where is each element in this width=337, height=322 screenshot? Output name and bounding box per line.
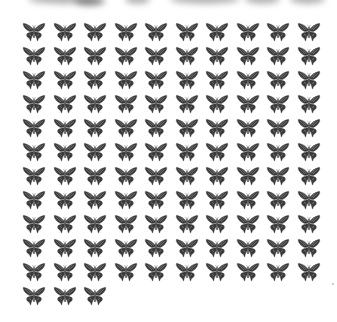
butterfly-icon bbox=[236, 141, 260, 163]
butterfly-icon bbox=[53, 237, 77, 259]
butterfly-icon bbox=[144, 117, 168, 139]
butterfly-icon bbox=[22, 189, 46, 211]
butterfly-icon bbox=[22, 69, 46, 91]
butterfly-icon bbox=[83, 285, 107, 307]
butterfly-icon bbox=[114, 141, 138, 163]
butterfly-icon bbox=[53, 45, 77, 67]
butterfly-icon bbox=[144, 165, 168, 187]
butterfly-icon bbox=[266, 93, 290, 115]
butterfly-icon bbox=[266, 189, 290, 211]
butterfly-icon bbox=[22, 141, 46, 163]
butterfly-icon bbox=[53, 285, 77, 307]
butterfly-icon bbox=[297, 189, 321, 211]
butterfly-icon bbox=[175, 165, 199, 187]
butterfly-icon bbox=[175, 45, 199, 67]
butterfly-icon bbox=[22, 93, 46, 115]
blur-blob bbox=[170, 0, 240, 4]
butterfly-icon bbox=[83, 69, 107, 91]
butterfly-icon bbox=[297, 69, 321, 91]
butterfly-icon bbox=[144, 261, 168, 283]
butterfly-icon bbox=[205, 141, 229, 163]
butterfly-icon bbox=[144, 237, 168, 259]
butterfly-icon bbox=[175, 213, 199, 235]
butterfly-icon bbox=[266, 165, 290, 187]
butterfly-icon bbox=[83, 213, 107, 235]
butterfly-icon bbox=[83, 261, 107, 283]
butterfly-icon bbox=[83, 117, 107, 139]
butterfly-icon bbox=[114, 45, 138, 67]
butterfly-icon bbox=[144, 93, 168, 115]
butterfly-icon bbox=[236, 69, 260, 91]
butterfly-icon bbox=[266, 213, 290, 235]
butterfly-icon bbox=[236, 45, 260, 67]
butterfly-icon bbox=[205, 165, 229, 187]
butterfly-icon bbox=[297, 93, 321, 115]
butterfly-icon bbox=[83, 45, 107, 67]
butterfly-icon bbox=[236, 261, 260, 283]
butterfly-icon bbox=[297, 213, 321, 235]
butterfly-icon bbox=[236, 213, 260, 235]
butterfly-icon bbox=[22, 45, 46, 67]
butterfly-icon bbox=[297, 261, 321, 283]
butterfly-icon bbox=[175, 141, 199, 163]
butterfly-icon bbox=[83, 189, 107, 211]
butterfly-icon bbox=[144, 45, 168, 67]
butterfly-icon bbox=[266, 141, 290, 163]
butterfly-icon bbox=[144, 21, 168, 43]
blur-blob bbox=[245, 0, 280, 4]
butterfly-icon bbox=[175, 261, 199, 283]
butterfly-icon bbox=[205, 189, 229, 211]
butterfly-icon bbox=[114, 21, 138, 43]
butterfly-icon bbox=[53, 21, 77, 43]
butterfly-icon bbox=[266, 69, 290, 91]
butterfly-icon bbox=[175, 93, 199, 115]
butterfly-icon bbox=[297, 237, 321, 259]
butterfly-icon bbox=[236, 21, 260, 43]
butterfly-icon bbox=[83, 93, 107, 115]
butterfly-icon bbox=[144, 213, 168, 235]
butterfly-icon bbox=[266, 237, 290, 259]
butterfly-icon bbox=[175, 21, 199, 43]
speck bbox=[332, 283, 334, 285]
butterfly-icon bbox=[205, 21, 229, 43]
butterfly-icon bbox=[205, 213, 229, 235]
butterfly-icon bbox=[114, 117, 138, 139]
butterfly-icon bbox=[114, 189, 138, 211]
butterfly-icon bbox=[266, 117, 290, 139]
butterfly-icon bbox=[53, 93, 77, 115]
butterfly-icon bbox=[144, 141, 168, 163]
butterfly-icon bbox=[53, 117, 77, 139]
butterfly-icon bbox=[22, 165, 46, 187]
butterfly-icon bbox=[205, 237, 229, 259]
butterfly-icon bbox=[22, 213, 46, 235]
butterfly-icon bbox=[236, 117, 260, 139]
butterfly-icon bbox=[114, 213, 138, 235]
butterfly-icon bbox=[205, 69, 229, 91]
butterfly-icon bbox=[236, 165, 260, 187]
butterfly-icon bbox=[144, 189, 168, 211]
blurred-top-strip bbox=[0, 0, 337, 8]
butterfly-icon bbox=[175, 69, 199, 91]
butterfly-icon bbox=[114, 93, 138, 115]
butterfly-icon bbox=[236, 237, 260, 259]
butterfly-icon bbox=[22, 237, 46, 259]
butterfly-icon bbox=[266, 21, 290, 43]
butterfly-icon bbox=[114, 69, 138, 91]
butterfly-icon bbox=[297, 21, 321, 43]
blur-blob bbox=[75, 0, 105, 6]
butterfly-icon bbox=[114, 165, 138, 187]
butterfly-icon bbox=[53, 261, 77, 283]
butterfly-icon bbox=[53, 141, 77, 163]
butterfly-icon bbox=[83, 237, 107, 259]
butterfly-icon bbox=[22, 117, 46, 139]
butterfly-icon bbox=[205, 93, 229, 115]
butterfly-icon bbox=[53, 165, 77, 187]
butterfly-icon bbox=[236, 93, 260, 115]
butterfly-icon bbox=[22, 261, 46, 283]
butterfly-icon bbox=[114, 237, 138, 259]
butterfly-icon bbox=[53, 189, 77, 211]
butterfly-icon bbox=[175, 117, 199, 139]
butterfly-icon bbox=[297, 45, 321, 67]
butterfly-icon bbox=[114, 261, 138, 283]
butterfly-icon bbox=[22, 21, 46, 43]
